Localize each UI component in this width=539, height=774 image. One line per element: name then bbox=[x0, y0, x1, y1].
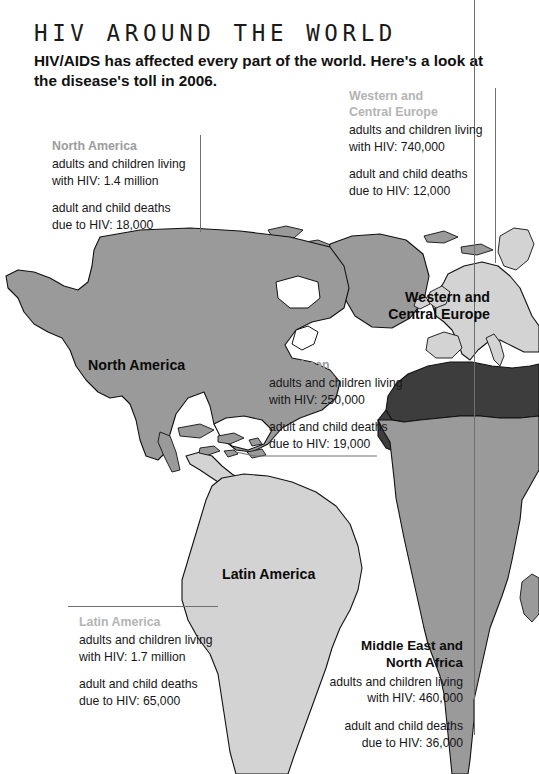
callout-region-title-caribbean: Caribbean bbox=[269, 357, 434, 373]
map-label-latin-america: Latin America bbox=[222, 566, 315, 583]
map-label-western-central-europe: Western and Central Europe bbox=[340, 289, 490, 324]
stat-living-latin-america: adults and children living with HIV: 1.7… bbox=[79, 632, 244, 665]
stat-living-value: with HIV: 250,000 bbox=[269, 393, 365, 407]
callout-north-america: North America adults and children living… bbox=[52, 138, 217, 234]
stat-living-middle-east-north-africa: adults and children living with HIV: 460… bbox=[300, 674, 463, 707]
callout-western-central-europe: Western and Central Europe adults and ch… bbox=[349, 88, 489, 200]
stat-deaths-latin-america: adult and child deaths due to HIV: 65,00… bbox=[79, 676, 244, 709]
stat-living-value: with HIV: 1.4 million bbox=[52, 174, 159, 188]
callout-caribbean: Caribbean adults and children living wit… bbox=[269, 357, 434, 453]
stat-living-western-central-europe: adults and children living with HIV: 740… bbox=[349, 122, 489, 155]
stat-living-caribbean: adults and children living with HIV: 250… bbox=[269, 375, 434, 408]
stat-deaths-caribbean: adult and child deaths due to HIV: 19,00… bbox=[269, 419, 434, 452]
stat-deaths-label: adult and child deaths bbox=[344, 719, 463, 733]
leader-line-latin-america bbox=[68, 606, 218, 607]
stat-living-value: with HIV: 460,000 bbox=[367, 691, 463, 705]
stat-living-label: adults and children living bbox=[330, 675, 463, 689]
callout-region-title-north-america: North America bbox=[52, 138, 217, 154]
leader-line-western-central-europe bbox=[495, 88, 496, 263]
stat-deaths-label: adult and child deaths bbox=[52, 201, 171, 215]
stat-deaths-label: adult and child deaths bbox=[349, 167, 468, 181]
stat-deaths-label: adult and child deaths bbox=[79, 677, 198, 691]
callout-region-title-middle-east-north-africa: Middle East and North Africa bbox=[300, 637, 463, 672]
stat-deaths-label: adult and child deaths bbox=[269, 420, 388, 434]
callout-latin-america: Latin America adults and children living… bbox=[79, 614, 244, 710]
stat-deaths-value: due to HIV: 65,000 bbox=[79, 694, 180, 708]
stat-deaths-value: due to HIV: 19,000 bbox=[269, 437, 370, 451]
stat-living-label: adults and children living bbox=[349, 123, 482, 137]
stat-living-label: adults and children living bbox=[269, 376, 402, 390]
stat-deaths-value: due to HIV: 12,000 bbox=[349, 184, 450, 198]
header: HIV AROUND THE WORLD HIV/AIDS has affect… bbox=[34, 22, 504, 91]
page-title: HIV AROUND THE WORLD bbox=[34, 22, 504, 46]
callout-middle-east-north-africa: Middle East and North Africa adults and … bbox=[300, 637, 463, 751]
stat-deaths-western-central-europe: adult and child deaths due to HIV: 12,00… bbox=[349, 166, 489, 199]
map-label-north-america: North America bbox=[88, 357, 185, 374]
stat-deaths-middle-east-north-africa: adult and child deaths due to HIV: 36,00… bbox=[300, 718, 463, 751]
callout-region-title-western-central-europe: Western and Central Europe bbox=[349, 88, 489, 120]
stat-living-value: with HIV: 1.7 million bbox=[79, 650, 186, 664]
stat-deaths-value: due to HIV: 18,000 bbox=[52, 218, 153, 232]
stat-living-label: adults and children living bbox=[52, 157, 185, 171]
callout-region-title-latin-america: Latin America bbox=[79, 614, 244, 630]
stat-deaths-value: due to HIV: 36,000 bbox=[362, 736, 463, 750]
stat-deaths-north-america: adult and child deaths due to HIV: 18,00… bbox=[52, 200, 217, 233]
infographic-page: .land-med { fill:#9a9a9a; stroke:#111111… bbox=[0, 0, 539, 774]
stat-living-value: with HIV: 740,000 bbox=[349, 140, 445, 154]
stat-living-label: adults and children living bbox=[79, 633, 212, 647]
page-subtitle: HIV/AIDS has affected every part of the … bbox=[34, 51, 494, 92]
stat-living-north-america: adults and children living with HIV: 1.4… bbox=[52, 156, 217, 189]
